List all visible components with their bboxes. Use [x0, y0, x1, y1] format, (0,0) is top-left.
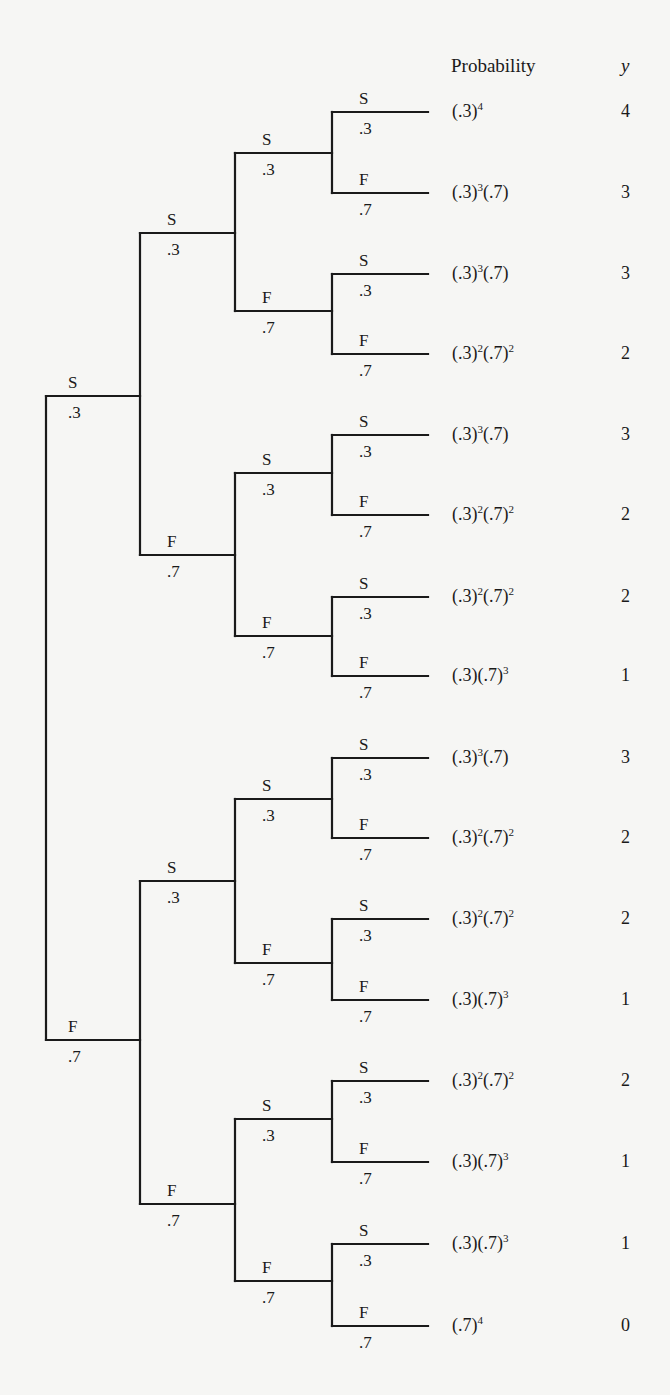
edge-probability-label: .3 [262, 807, 275, 824]
outcome-label-f: F [359, 493, 368, 510]
y-header: y [621, 56, 629, 75]
tree-diagram [0, 0, 670, 1395]
outcome-label-f: F [359, 1140, 368, 1157]
leaf-probability: (.3)3(.7) [452, 425, 509, 443]
edge-probability-label: .7 [262, 644, 275, 661]
edge-probability-label: .7 [167, 563, 180, 580]
edge-probability-label: .7 [359, 1008, 372, 1025]
edge-probability-label: .7 [359, 523, 372, 540]
leaf-y-value: 3 [621, 183, 630, 201]
outcome-label-f: F [359, 1304, 368, 1321]
outcome-label-f: F [167, 533, 176, 550]
leaf-probability: (.3)(.7)3 [452, 666, 509, 684]
outcome-label-s: S [262, 451, 271, 468]
outcome-label-s: S [359, 897, 368, 914]
leaf-probability: (.7)4 [452, 1316, 483, 1334]
outcome-label-s: S [262, 131, 271, 148]
leaf-probability: (.3)2(.7)2 [452, 909, 514, 927]
leaf-y-value: 1 [621, 1152, 630, 1170]
edge-probability-label: .3 [359, 605, 372, 622]
edge-probability-label: .7 [359, 846, 372, 863]
edge-probability-label: .3 [167, 889, 180, 906]
outcome-label-s: S [262, 1097, 271, 1114]
leaf-y-value: 2 [621, 344, 630, 362]
leaf-y-value: 3 [621, 748, 630, 766]
leaf-probability: (.3)3(.7) [452, 264, 509, 282]
edge-probability-label: .3 [167, 241, 180, 258]
outcome-label-f: F [167, 1182, 176, 1199]
edge-probability-label: .7 [262, 971, 275, 988]
leaf-probability: (.3)3(.7) [452, 748, 509, 766]
edge-probability-label: .7 [359, 201, 372, 218]
outcome-label-f: F [359, 171, 368, 188]
outcome-label-f: F [68, 1018, 77, 1035]
leaf-y-value: 4 [621, 102, 630, 120]
edge-probability-label: .3 [359, 120, 372, 137]
edge-probability-label: .3 [359, 443, 372, 460]
leaf-y-value: 3 [621, 264, 630, 282]
leaf-y-value: 2 [621, 909, 630, 927]
edge-probability-label: .7 [167, 1212, 180, 1229]
edge-probability-label: .3 [359, 282, 372, 299]
leaf-y-value: 1 [621, 1234, 630, 1252]
outcome-label-f: F [359, 654, 368, 671]
outcome-label-s: S [167, 859, 176, 876]
outcome-label-f: F [262, 941, 271, 958]
edge-probability-label: .3 [359, 766, 372, 783]
edge-probability-label: .7 [68, 1048, 81, 1065]
outcome-label-s: S [359, 736, 368, 753]
leaf-probability: (.3)(.7)3 [452, 990, 509, 1008]
leaf-probability: (.3)4 [452, 102, 483, 120]
outcome-label-s: S [359, 252, 368, 269]
outcome-label-f: F [262, 289, 271, 306]
leaf-y-value: 2 [621, 587, 630, 605]
edge-probability-label: .7 [359, 684, 372, 701]
outcome-label-s: S [359, 90, 368, 107]
edge-probability-label: .3 [262, 481, 275, 498]
edge-probability-label: .7 [359, 1334, 372, 1351]
leaf-probability: (.3)2(.7)2 [452, 828, 514, 846]
leaf-y-value: 2 [621, 505, 630, 523]
outcome-label-f: F [359, 978, 368, 995]
edge-probability-label: .3 [359, 1252, 372, 1269]
edge-probability-label: .3 [262, 161, 275, 178]
outcome-label-s: S [359, 1059, 368, 1076]
leaf-probability: (.3)3(.7) [452, 183, 509, 201]
probability-header: Probability [451, 56, 535, 75]
leaf-probability: (.3)2(.7)2 [452, 505, 514, 523]
outcome-label-f: F [359, 332, 368, 349]
outcome-label-s: S [359, 413, 368, 430]
outcome-label-s: S [262, 777, 271, 794]
outcome-label-s: S [359, 575, 368, 592]
edge-probability-label: .3 [68, 404, 81, 421]
leaf-probability: (.3)2(.7)2 [452, 587, 514, 605]
leaf-y-value: 1 [621, 990, 630, 1008]
leaf-y-value: 0 [621, 1316, 630, 1334]
edge-probability-label: .7 [262, 1289, 275, 1306]
edge-probability-label: .3 [359, 927, 372, 944]
leaf-probability: (.3)(.7)3 [452, 1152, 509, 1170]
leaf-y-value: 1 [621, 666, 630, 684]
leaf-y-value: 2 [621, 1071, 630, 1089]
outcome-label-s: S [68, 374, 77, 391]
leaf-y-value: 2 [621, 828, 630, 846]
edge-probability-label: .3 [262, 1127, 275, 1144]
edge-probability-label: .7 [359, 1170, 372, 1187]
leaf-probability: (.3)2(.7)2 [452, 344, 514, 362]
edge-probability-label: .7 [262, 319, 275, 336]
outcome-label-f: F [262, 614, 271, 631]
outcome-label-f: F [262, 1259, 271, 1276]
outcome-label-s: S [167, 211, 176, 228]
leaf-probability: (.3)(.7)3 [452, 1234, 509, 1252]
leaf-y-value: 3 [621, 425, 630, 443]
outcome-label-s: S [359, 1222, 368, 1239]
outcome-label-f: F [359, 816, 368, 833]
edge-probability-label: .7 [359, 362, 372, 379]
leaf-probability: (.3)2(.7)2 [452, 1071, 514, 1089]
edge-probability-label: .3 [359, 1089, 372, 1106]
